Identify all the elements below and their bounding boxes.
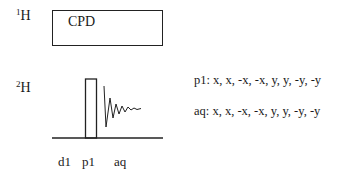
timing-label-p1: p1 [82,155,95,169]
phase-cycle-aq: aq: x, x, -x, -x, y, y, -y, -y [194,104,320,118]
timing-label-d1: d1 [58,155,71,169]
timing-label-aq: aq [114,155,126,169]
phase-cycle-p1: p1: x, x, -x, -x, y, y, -y, -y [194,73,321,87]
pulse-sequence-diagram [0,0,354,177]
p1-pulse [86,79,97,138]
fid-signal [104,86,141,127]
